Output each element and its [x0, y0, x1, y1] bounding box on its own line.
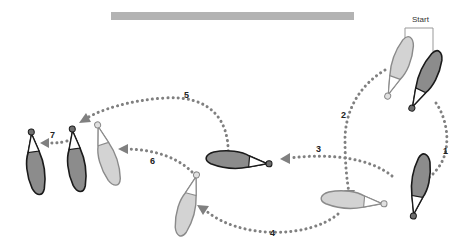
path-4 — [197, 205, 338, 232]
figure-position-2-light — [320, 189, 387, 212]
figure-position-6-dark — [62, 125, 88, 193]
path-2 — [344, 70, 385, 200]
figure-start-light — [379, 34, 418, 102]
figure-position-4-light — [171, 170, 205, 238]
figure-position-1-dark — [405, 153, 433, 221]
figure-position-3-dark — [205, 149, 272, 172]
figure-position-7-dark — [21, 128, 47, 196]
step-label-6: 6 — [150, 156, 155, 166]
step-label-3: 3 — [316, 144, 321, 154]
step-label-7: 7 — [50, 130, 55, 140]
start-label: Start — [412, 15, 430, 24]
title-bar — [111, 12, 354, 20]
diagram-svg: Start 1 — [0, 0, 469, 251]
figure-position-5-light — [88, 120, 125, 188]
diagram-canvas: Start 1 — [0, 0, 469, 251]
path-3 — [280, 153, 392, 176]
step-label-5: 5 — [184, 90, 189, 100]
step-label-4: 4 — [270, 228, 275, 238]
step-label-1: 1 — [443, 146, 448, 156]
step-label-2: 2 — [341, 110, 346, 120]
